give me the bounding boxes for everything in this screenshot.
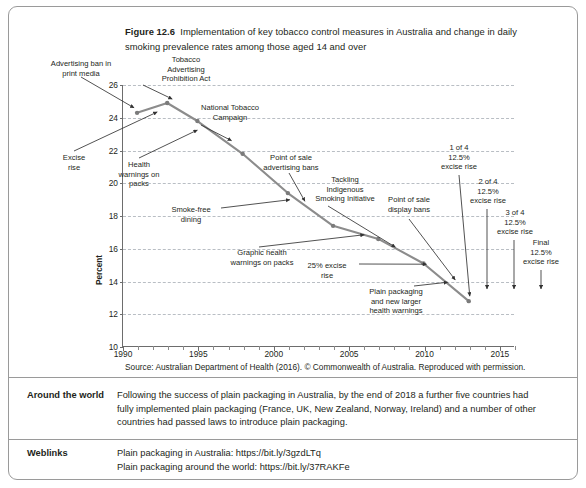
annotation-leader-arrow bbox=[409, 219, 455, 280]
chart-annotation-label: Advertising ban in print media bbox=[35, 59, 127, 78]
row-body-around-the-world: Following the success of plain packaging… bbox=[117, 389, 565, 430]
chart-annotation-label: Final 12.5% excise rise bbox=[513, 238, 569, 267]
annotation-leader-arrow bbox=[221, 200, 290, 208]
annotation-leaders-layer bbox=[23, 65, 565, 355]
chart-annotation-label: Smoke-free dining bbox=[156, 205, 226, 224]
chart-annotation-label: 2 of 4 12.5% excise rise bbox=[460, 177, 516, 206]
figure-caption-body: Implementation of key tobacco control me… bbox=[125, 26, 517, 52]
annotation-leader-arrow bbox=[259, 235, 364, 247]
chart-annotation-label: Point of sale advertising bans bbox=[249, 153, 333, 172]
chart-annotation-label: National Tobacco Campaign bbox=[185, 103, 275, 122]
figure-caption: Figure 12.6 Implementation of key tobacc… bbox=[125, 25, 525, 54]
chart-annotation-label: 25% excise rise bbox=[291, 261, 363, 280]
chart-annotation-label: Health warnings on packs bbox=[107, 160, 171, 189]
chart-annotation-label: 1 of 4 12.5% excise rise bbox=[431, 143, 487, 172]
row-body-weblinks: Plain packaging in Australia: https://bi… bbox=[117, 447, 565, 474]
chart-annotation-label: Plain packaging and new larger health wa… bbox=[353, 287, 439, 316]
around-the-world-line-2: fully implemented plain packaging (Franc… bbox=[117, 403, 565, 417]
annotation-leader-arrow bbox=[139, 130, 197, 158]
around-the-world-line-1: Following the success of plain packaging… bbox=[117, 389, 565, 403]
weblink-line-1[interactable]: Plain packaging in Australia: https://bi… bbox=[117, 447, 565, 461]
row-weblinks: Weblinks Plain packaging in Australia: h… bbox=[9, 447, 578, 480]
chart-annotation-label: Point of sale display bans bbox=[373, 195, 445, 214]
chart-annotation-label: 3 of 4 12.5% excise rise bbox=[487, 208, 543, 237]
annotation-leader-arrow bbox=[414, 282, 448, 286]
row-label-weblinks: Weblinks bbox=[27, 447, 117, 461]
around-the-world-line-3: countries had passed laws to introduce p… bbox=[117, 416, 565, 430]
figure-card: Figure 12.6 Implementation of key tobacc… bbox=[8, 6, 578, 480]
divider-above-weblinks bbox=[9, 439, 578, 440]
chart-annotation-label: Tobacco Advertising Prohibition Act bbox=[138, 55, 234, 84]
row-label-around-the-world: Around the world bbox=[27, 389, 117, 403]
page-root: Figure 12.6 Implementation of key tobacc… bbox=[0, 0, 586, 488]
chart-figure: Percent 10121416182022242619901995200020… bbox=[23, 65, 565, 355]
figure-number: Figure 12.6 bbox=[125, 26, 175, 37]
chart-annotation-label: Excise rise bbox=[48, 153, 100, 172]
source-note: Source: Australian Department of Health … bbox=[125, 362, 525, 372]
annotation-leader-arrow bbox=[201, 125, 232, 141]
annotation-leader-arrow bbox=[81, 77, 134, 108]
divider-above-around-the-world bbox=[9, 377, 578, 378]
annotation-leader-arrow bbox=[143, 85, 172, 99]
row-around-the-world: Around the world Following the success o… bbox=[9, 389, 578, 437]
weblink-line-2[interactable]: Plain packaging around the world: https:… bbox=[117, 461, 565, 475]
annotation-leader-arrow bbox=[74, 112, 157, 151]
